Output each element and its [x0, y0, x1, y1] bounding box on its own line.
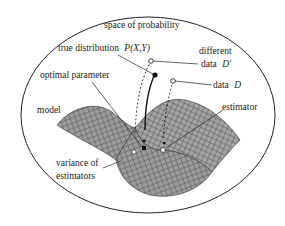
estimator-point-dark	[142, 139, 145, 142]
leader-data-prime	[153, 61, 198, 64]
true-distribution-label: true distribution P(X,Y)	[58, 43, 150, 54]
space-of-probability-label: space of probability	[104, 20, 180, 30]
different-label: different	[199, 46, 232, 56]
model-surface	[57, 99, 240, 196]
statistical-model-diagram: space of probability true distribution P…	[0, 0, 285, 226]
estimator-point	[161, 148, 165, 152]
data-prime-label: data D′	[201, 59, 232, 69]
data-point	[171, 79, 176, 84]
variance-label-line1: variance of	[56, 158, 99, 168]
leader-data	[175, 81, 212, 85]
optimal-parameter-label: optimal parameter	[40, 70, 110, 80]
estimator-small-point	[163, 142, 166, 145]
variance-label-line2: estimators	[56, 171, 95, 181]
leader-true-distribution	[118, 55, 153, 74]
true-distribution-point	[152, 72, 157, 77]
data-label: data D	[213, 80, 241, 90]
model-label: model	[37, 105, 61, 115]
data-prime-point	[149, 59, 154, 64]
estimator-prime-point	[132, 150, 136, 154]
optimal-parameter-point	[142, 146, 146, 150]
estimator-label: estimator	[222, 102, 258, 112]
